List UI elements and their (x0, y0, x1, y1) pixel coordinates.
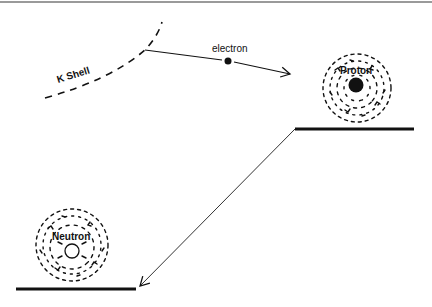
neutron-label: Neutron (52, 231, 90, 242)
k-shell-curve (45, 22, 162, 98)
transition-arrow (140, 129, 295, 286)
proton-label: Proton (340, 65, 372, 76)
proton-nucleus (349, 78, 364, 93)
electron-label: electron (212, 43, 248, 54)
electron-path-arrow (234, 62, 290, 74)
electron-dot (225, 58, 232, 65)
neutron-nucleus (65, 244, 79, 258)
diagram-canvas: K Shell electron Proton Neutron (0, 0, 432, 307)
k-shell-label: K Shell (55, 64, 91, 84)
electron-capture-diagram: K Shell electron Proton Neutron (0, 0, 432, 307)
electron-path-segment-1 (145, 50, 222, 60)
